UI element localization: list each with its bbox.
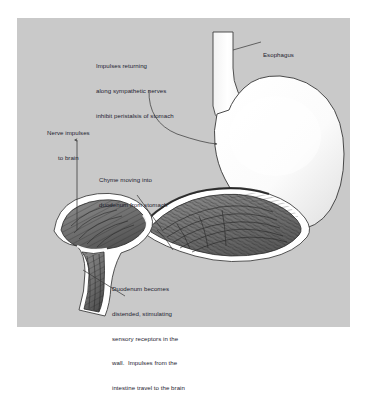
- annotation-nerve-impulses: Nerve impulses to brain: [47, 113, 90, 179]
- annotation-duodenum-line4: wall. Impulses from the: [112, 359, 185, 367]
- annotation-duodenum-line3: sensory receptors in the: [112, 335, 185, 343]
- annotation-esophagus-label: Esophagus: [263, 51, 294, 59]
- annotation-chyme-line1: Chyme moving into: [99, 176, 167, 184]
- annotation-nerve-line1: Nerve impulses: [47, 129, 90, 137]
- leader-esophagus: [233, 42, 261, 50]
- annotation-duodenum-line5: intestine travel to the brain: [112, 384, 185, 392]
- annotation-sympathetic-line1: Impulses returning: [96, 62, 174, 70]
- annotation-duodenum-line1: Duodenum becomes: [112, 285, 185, 293]
- annotation-esophagus: Esophagus: [263, 35, 294, 76]
- annotation-sympathetic-line3: inhibit peristalsis of stomach: [96, 112, 174, 120]
- annotation-sympathetic-line2: along sympathetic nerves: [96, 87, 174, 95]
- annotation-duodenum-distension: Duodenum becomes distended, stimulating …: [112, 269, 185, 394]
- annotation-chyme-line2: duodenum from stomach: [99, 201, 167, 209]
- annotation-sympathetic-nerves: Impulses returning along sympathetic ner…: [96, 46, 174, 136]
- annotation-chyme: Chyme moving into duodenum from stomach: [99, 160, 167, 226]
- annotation-duodenum-line2: distended, stimulating: [112, 310, 185, 318]
- annotation-nerve-line2: to brain: [47, 154, 90, 162]
